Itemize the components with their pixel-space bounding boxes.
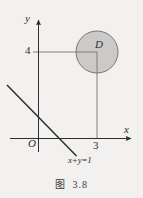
line-x-plus-y-equals-1	[7, 85, 77, 156]
y-axis-label: y	[25, 13, 30, 24]
figure-caption-number: 3.8	[73, 179, 89, 190]
origin-label: O	[28, 138, 36, 149]
x-axis-label: x	[124, 124, 129, 135]
figure-caption-word: 图	[55, 179, 66, 190]
figure-3-8: y x O 4 3 D x+y=1 图3.8	[0, 0, 143, 198]
x-tick-label-3: 3	[93, 140, 99, 151]
figure-canvas	[0, 0, 143, 198]
figure-caption: 图3.8	[0, 176, 143, 191]
y-tick-label-4: 4	[25, 45, 31, 56]
line-equation-label: x+y=1	[68, 156, 92, 165]
region-d-label: D	[95, 39, 103, 50]
